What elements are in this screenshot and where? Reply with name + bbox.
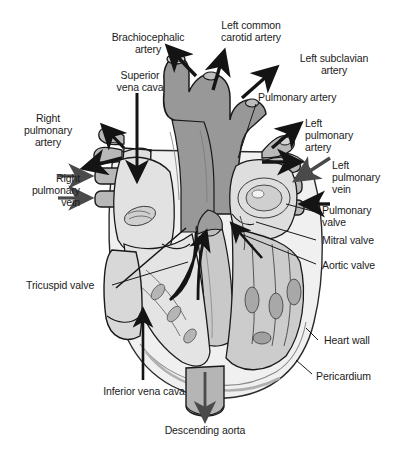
label-pulmonary-valve: Pulmonary valve (322, 204, 398, 228)
label-left-subclavian-artery: Left subclavian artery (274, 52, 394, 76)
label-left-common-carotid-artery: Left common carotid artery (196, 19, 306, 43)
label-pericardium: Pericardium (316, 370, 398, 382)
label-inferior-vena-cava: Inferior vena cava (88, 385, 200, 397)
heart-anatomy-figure: Brachiocephalic artery Left common carot… (0, 0, 399, 452)
label-left-pulmonary-artery: Left pulmonary artery (305, 117, 397, 153)
label-brachiocephalic-artery: Brachiocephalic artery (88, 31, 208, 55)
label-heart-wall: Heart wall (324, 334, 398, 346)
label-descending-aorta: Descending aorta (146, 424, 264, 436)
label-superior-vena-cava: Superior vena cava (96, 69, 184, 93)
label-right-pulmonary-artery: Right pulmonary artery (4, 112, 92, 148)
right-atrium (114, 157, 175, 257)
label-pulmonary-artery: Pulmonary artery (258, 91, 388, 103)
label-right-pulmonary-vein: Right pulmonary vein (0, 172, 80, 208)
label-tricuspid-valve: Tricuspid valve (26, 279, 116, 291)
inferior-vena-cava-vessel (104, 250, 142, 339)
left-atrium (230, 160, 297, 240)
label-left-pulmonary-vein: Left pulmonary vein (332, 159, 398, 195)
label-aortic-valve: Aortic valve (322, 259, 398, 271)
label-mitral-valve: Mitral valve (322, 234, 398, 246)
leader-pericardium (296, 360, 312, 374)
